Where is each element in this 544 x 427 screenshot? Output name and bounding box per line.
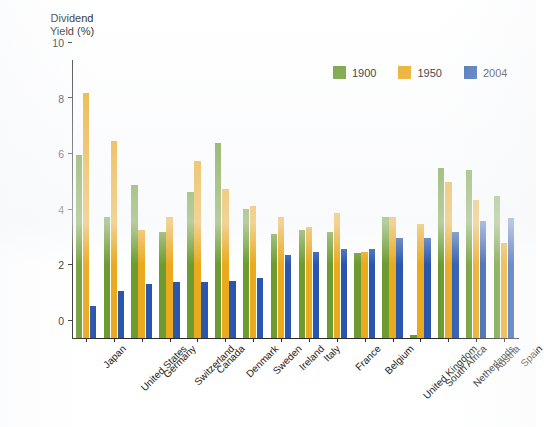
x-axis-tick-mark bbox=[86, 338, 87, 342]
bar-1900[interactable] bbox=[438, 168, 444, 338]
bar-1900[interactable] bbox=[104, 217, 110, 338]
x-axis-tick-mark bbox=[448, 338, 449, 342]
bar-2004[interactable] bbox=[508, 218, 514, 338]
x-axis-tick-mark bbox=[309, 338, 310, 342]
y-axis-title: Dividend Yield (%) bbox=[27, 12, 117, 38]
y-axis-tick: 8 bbox=[58, 89, 72, 107]
bar-group bbox=[407, 60, 435, 338]
x-axis-label: Italy bbox=[321, 343, 342, 364]
legend-swatch-2004 bbox=[464, 66, 477, 79]
bar-2004[interactable] bbox=[452, 232, 458, 338]
y-axis-tick-label: 8 bbox=[58, 93, 64, 105]
y-axis-tick: 6 bbox=[58, 144, 72, 162]
bar-1900[interactable] bbox=[187, 192, 193, 338]
x-axis-tick-mark bbox=[197, 338, 198, 342]
bar-group bbox=[434, 60, 462, 338]
bar-1950[interactable] bbox=[501, 243, 507, 338]
x-axis-tick-mark bbox=[476, 338, 477, 342]
bar-1950[interactable] bbox=[389, 217, 395, 338]
bar-1900[interactable] bbox=[410, 335, 416, 338]
bar-2004[interactable] bbox=[341, 249, 347, 338]
legend-label-1900: 1900 bbox=[352, 67, 376, 79]
bar-1900[interactable] bbox=[327, 232, 333, 338]
bar-1900[interactable] bbox=[131, 185, 137, 338]
y-axis-tick-label: 0 bbox=[58, 315, 64, 327]
bar-1950[interactable] bbox=[473, 200, 479, 338]
y-axis-tick-label: 6 bbox=[58, 148, 64, 160]
bar-1950[interactable] bbox=[334, 213, 340, 338]
y-axis-tick: 0 bbox=[58, 311, 72, 329]
y-axis-tick: 10 bbox=[52, 33, 72, 51]
x-axis-tick-mark bbox=[365, 338, 366, 342]
x-axis-tick-mark bbox=[142, 338, 143, 342]
bar-1950[interactable] bbox=[138, 230, 144, 338]
bar-group bbox=[351, 60, 379, 338]
bar-2004[interactable] bbox=[396, 238, 402, 338]
x-axis-label: Japan bbox=[101, 343, 128, 370]
legend-item-1900[interactable]: 1900 bbox=[333, 66, 376, 79]
bar-1900[interactable] bbox=[159, 232, 165, 338]
bar-group bbox=[184, 60, 212, 338]
bar-2004[interactable] bbox=[146, 284, 152, 338]
bar-1950[interactable] bbox=[306, 227, 312, 338]
bar-group bbox=[323, 60, 351, 338]
bar-1900[interactable] bbox=[354, 253, 360, 338]
bar-1900[interactable] bbox=[382, 217, 388, 338]
x-axis-tick-mark bbox=[420, 338, 421, 342]
chart-legend: 190019502004 bbox=[333, 66, 507, 79]
legend-item-1950[interactable]: 1950 bbox=[398, 66, 441, 79]
bar-group bbox=[128, 60, 156, 338]
bar-1950[interactable] bbox=[278, 217, 284, 338]
x-axis-label: Belgium bbox=[382, 343, 415, 376]
x-axis-tick-mark bbox=[504, 338, 505, 342]
bar-2004[interactable] bbox=[424, 238, 430, 338]
x-axis-label: France bbox=[353, 343, 383, 373]
x-axis-tick-mark bbox=[281, 338, 282, 342]
bar-1950[interactable] bbox=[445, 182, 451, 338]
x-axis-tick-mark bbox=[114, 338, 115, 342]
bar-1950[interactable] bbox=[222, 189, 228, 338]
bar-1950[interactable] bbox=[111, 141, 117, 338]
bar-1950[interactable] bbox=[250, 206, 256, 338]
x-axis-tick-mark bbox=[337, 338, 338, 342]
bar-1950[interactable] bbox=[417, 224, 423, 338]
bar-2004[interactable] bbox=[173, 282, 179, 338]
bar-1900[interactable] bbox=[215, 143, 221, 338]
bar-1950[interactable] bbox=[361, 252, 367, 338]
bar-2004[interactable] bbox=[201, 282, 207, 338]
bar-2004[interactable] bbox=[480, 221, 486, 338]
bar-1900[interactable] bbox=[466, 170, 472, 338]
legend-swatch-1950 bbox=[398, 66, 411, 79]
bar-1950[interactable] bbox=[83, 93, 89, 338]
bar-1900[interactable] bbox=[243, 209, 249, 338]
y-axis-tick-mark bbox=[68, 42, 72, 43]
y-axis-tick-label: 4 bbox=[58, 204, 64, 216]
bar-1900[interactable] bbox=[299, 230, 305, 338]
bar-2004[interactable] bbox=[257, 278, 263, 338]
bar-2004[interactable] bbox=[313, 252, 319, 338]
bar-group bbox=[72, 60, 100, 338]
bar-2004[interactable] bbox=[285, 255, 291, 338]
bar-2004[interactable] bbox=[229, 281, 235, 338]
bar-2004[interactable] bbox=[90, 306, 96, 338]
bar-group bbox=[462, 60, 490, 338]
bar-group bbox=[211, 60, 239, 338]
legend-swatch-1900 bbox=[333, 66, 346, 79]
bar-1900[interactable] bbox=[494, 196, 500, 338]
x-axis-label: Spain bbox=[519, 343, 544, 369]
legend-label-1950: 1950 bbox=[417, 67, 441, 79]
legend-item-2004[interactable]: 2004 bbox=[464, 66, 507, 79]
bar-group bbox=[379, 60, 407, 338]
bar-2004[interactable] bbox=[118, 291, 124, 338]
plot-area: 0246810 bbox=[72, 60, 518, 338]
bar-1950[interactable] bbox=[194, 161, 200, 338]
x-axis-tick-mark bbox=[225, 338, 226, 342]
bar-1900[interactable] bbox=[271, 234, 277, 338]
x-axis-label: United Kingdom bbox=[420, 343, 478, 401]
x-axis-tick-mark bbox=[170, 338, 171, 342]
x-axis-tick-mark bbox=[253, 338, 254, 342]
bar-1900[interactable] bbox=[76, 155, 82, 338]
x-axis-line bbox=[72, 338, 519, 339]
bar-2004[interactable] bbox=[369, 249, 375, 338]
bar-1950[interactable] bbox=[166, 217, 172, 338]
